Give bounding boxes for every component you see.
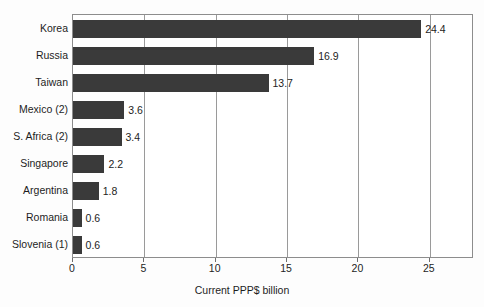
bar[interactable]: [73, 236, 82, 254]
x-tick-label: 20: [352, 263, 364, 274]
category-label: Taiwan: [0, 77, 68, 88]
x-tick-label: 25: [423, 263, 435, 274]
bar-value-label: 1.8: [103, 186, 118, 197]
bar[interactable]: [73, 47, 314, 65]
bar-row: 3.6: [73, 101, 474, 119]
category-axis-labels: KoreaRussiaTaiwanMexico (2)S. Africa (2)…: [0, 14, 68, 258]
category-label: Slovenia (1): [0, 239, 68, 250]
bar-value-label: 0.6: [86, 240, 101, 251]
bar-row: 2.2: [73, 155, 474, 173]
bar-row: 13.7: [73, 74, 474, 92]
x-axis-title: Current PPP$ billion: [0, 284, 484, 296]
bar[interactable]: [73, 182, 99, 200]
bar[interactable]: [73, 74, 269, 92]
bar-value-label: 16.9: [318, 50, 338, 61]
bar-row: 16.9: [73, 47, 474, 65]
x-tick-label: 10: [209, 263, 221, 274]
category-label: Russia: [0, 50, 68, 61]
bar[interactable]: [73, 20, 421, 38]
bar[interactable]: [73, 155, 104, 173]
category-label: Romania: [0, 212, 68, 223]
category-label: Korea: [0, 23, 68, 34]
bar-value-label: 24.4: [425, 23, 445, 34]
bar-row: 3.4: [73, 128, 474, 146]
plot-area: 24.416.913.73.63.42.21.80.60.6: [72, 14, 473, 258]
bar-value-label: 13.7: [273, 78, 293, 89]
x-tick-label: 5: [140, 263, 146, 274]
category-label: S. Africa (2): [0, 131, 68, 142]
bar-row: 0.6: [73, 236, 474, 254]
x-tick-label: 0: [69, 263, 75, 274]
bar-row: 24.4: [73, 20, 474, 38]
bar[interactable]: [73, 209, 82, 227]
x-axis-ticks: 0510152025: [72, 258, 473, 276]
bar-value-label: 3.6: [128, 105, 143, 116]
category-label: Mexico (2): [0, 104, 68, 115]
bar-value-label: 3.4: [126, 132, 141, 143]
bar-value-label: 0.6: [86, 213, 101, 224]
category-label: Singapore: [0, 158, 68, 169]
x-tick-label: 15: [280, 263, 292, 274]
bar-chart: KoreaRussiaTaiwanMexico (2)S. Africa (2)…: [0, 0, 484, 307]
category-label: Argentina: [0, 185, 68, 196]
bar[interactable]: [73, 101, 124, 119]
bar-row: 1.8: [73, 182, 474, 200]
bar-row: 0.6: [73, 209, 474, 227]
bar[interactable]: [73, 128, 122, 146]
bar-value-label: 2.2: [108, 159, 123, 170]
